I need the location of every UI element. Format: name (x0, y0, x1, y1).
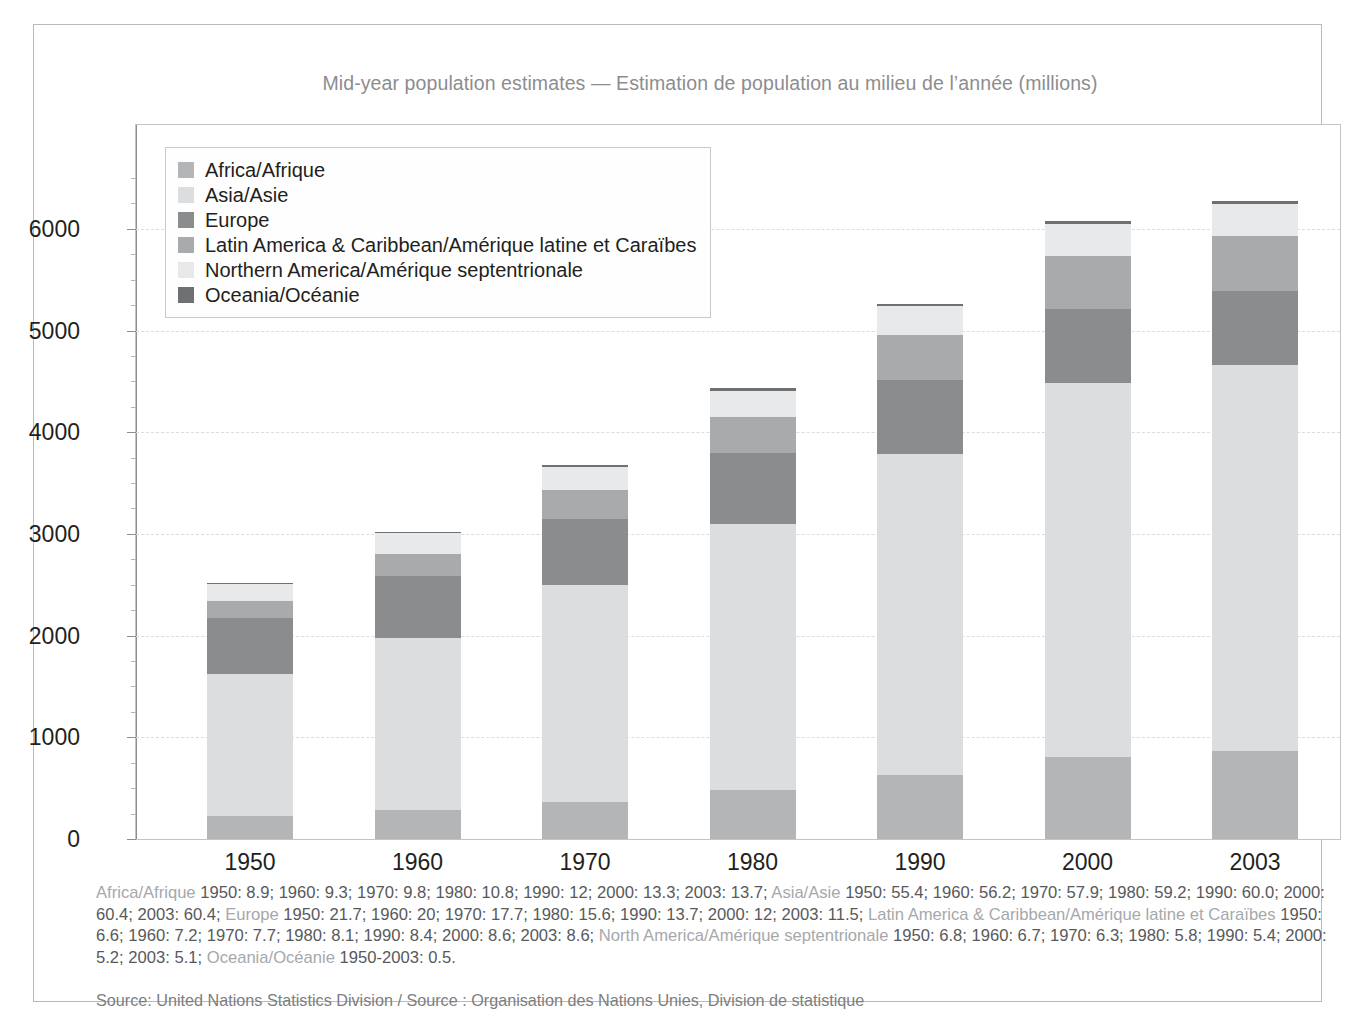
caption-region-values: 1950: 21.7; 1960: 20; 1970: 17.7; 1980: … (283, 905, 868, 924)
data-caption: Africa/Afrique 1950: 8.9; 1960: 9.3; 197… (96, 882, 1341, 968)
bar-segment-latin_america-1960[interactable] (375, 554, 461, 576)
bar-segment-northern_america-2000[interactable] (1045, 224, 1131, 256)
bar-segment-latin_america-1990[interactable] (877, 335, 963, 380)
bar-segment-oceania-1950[interactable] (207, 583, 293, 584)
legend-item-africa[interactable]: Africa/Afrique (178, 157, 696, 182)
bar-segment-oceania-1990[interactable] (877, 304, 963, 307)
caption-region-name: Africa/Afrique (96, 883, 200, 902)
legend-item-label: Africa/Afrique (205, 160, 325, 180)
bar-segment-africa-2003[interactable] (1212, 751, 1298, 839)
legend-item-label: Latin America & Caribbean/Amérique latin… (205, 235, 696, 255)
bar-segment-asia-1950[interactable] (207, 674, 293, 816)
x-axis-label-1960: 1960 (358, 849, 478, 876)
legend-item-oceania[interactable]: Oceania/Océanie (178, 282, 696, 307)
legend-item-label: Asia/Asie (205, 185, 288, 205)
source-note: Source: United Nations Statistics Divisi… (96, 991, 1341, 1010)
y-tick-4000 (127, 432, 136, 433)
y-axis-label-1000: 1000 (0, 724, 80, 751)
bar-segment-latin_america-2000[interactable] (1045, 256, 1131, 309)
bar-segment-europe-2003[interactable] (1212, 291, 1298, 365)
bar-segment-latin_america-1970[interactable] (542, 490, 628, 519)
bar-segment-asia-1980[interactable] (710, 524, 796, 791)
y-tick-6000 (127, 229, 136, 230)
caption-region-name: Oceania/Océanie (207, 948, 340, 967)
bar-segment-africa-1970[interactable] (542, 802, 628, 839)
bar-segment-asia-1970[interactable] (542, 585, 628, 802)
x-axis-label-1950: 1950 (190, 849, 310, 876)
bar-segment-northern_america-1960[interactable] (375, 533, 461, 554)
legend-swatch-icon-asia (178, 187, 194, 203)
bar-segment-africa-1980[interactable] (710, 790, 796, 839)
bar-segment-africa-1960[interactable] (375, 810, 461, 839)
bar-segment-northern_america-1970[interactable] (542, 467, 628, 491)
legend-swatch-icon-northern_america (178, 262, 194, 278)
y-axis-label-2000: 2000 (0, 622, 80, 649)
legend-item-label: Northern America/Amérique septentrionale (205, 260, 583, 280)
y-axis-label-4000: 4000 (0, 419, 80, 446)
bar-segment-asia-2000[interactable] (1045, 383, 1131, 756)
bar-segment-asia-2003[interactable] (1212, 365, 1298, 751)
bar-segment-europe-2000[interactable] (1045, 309, 1131, 383)
bar-segment-africa-1990[interactable] (877, 775, 963, 839)
y-tick-5000 (127, 331, 136, 332)
x-axis-label-1990: 1990 (860, 849, 980, 876)
caption-region-name: Latin America & Caribbean/Amérique latin… (868, 905, 1280, 924)
bar-segment-oceania-1980[interactable] (710, 388, 796, 390)
figure-frame: Mid-year population estimates — Estimati… (33, 24, 1322, 1002)
bar-group-1990[interactable] (877, 125, 963, 839)
legend-item-northern_america[interactable]: Northern America/Amérique septentrionale (178, 257, 696, 282)
y-axis-label-0: 0 (0, 826, 80, 853)
bar-group-1980[interactable] (710, 125, 796, 839)
y-tick-2000 (127, 636, 136, 637)
page-title: Mid-year population estimates — Estimati… (34, 72, 1352, 95)
x-axis-label-1970: 1970 (525, 849, 645, 876)
bar-segment-europe-1990[interactable] (877, 380, 963, 453)
y-tick-1000 (127, 737, 136, 738)
caption-region-values: 1950: 8.9; 1960: 9.3; 1970: 9.8; 1980: 1… (200, 883, 771, 902)
bar-segment-oceania-2003[interactable] (1212, 201, 1298, 204)
legend-swatch-icon-latin_america (178, 237, 194, 253)
y-axis-label-5000: 5000 (0, 317, 80, 344)
bar-segment-europe-1950[interactable] (207, 618, 293, 674)
x-axis-label-2003: 2003 (1195, 849, 1315, 876)
legend-item-latin_america[interactable]: Latin America & Caribbean/Amérique latin… (178, 232, 696, 257)
bar-segment-asia-1960[interactable] (375, 638, 461, 811)
bar-segment-latin_america-2003[interactable] (1212, 236, 1298, 291)
y-axis-label-3000: 3000 (0, 520, 80, 547)
caption-region-name: Europe (225, 905, 283, 924)
bar-segment-africa-1950[interactable] (207, 816, 293, 839)
y-tick-3000 (127, 534, 136, 535)
bar-segment-africa-2000[interactable] (1045, 757, 1131, 839)
x-axis-label-1980: 1980 (693, 849, 813, 876)
bar-segment-asia-1990[interactable] (877, 454, 963, 775)
bar-segment-oceania-1970[interactable] (542, 465, 628, 467)
bar-segment-europe-1970[interactable] (542, 519, 628, 585)
bar-group-2000[interactable] (1045, 125, 1131, 839)
bar-segment-europe-1960[interactable] (375, 576, 461, 638)
bar-group-2003[interactable] (1212, 125, 1298, 839)
bar-segment-latin_america-1980[interactable] (710, 417, 796, 454)
legend-swatch-icon-oceania (178, 287, 194, 303)
legend-swatch-icon-europe (178, 212, 194, 228)
bar-segment-oceania-2000[interactable] (1045, 221, 1131, 224)
caption-region-name: North America/Amérique septentrionale (599, 926, 893, 945)
bar-segment-oceania-1960[interactable] (375, 532, 461, 534)
bar-segment-northern_america-1980[interactable] (710, 391, 796, 417)
bar-segment-latin_america-1950[interactable] (207, 601, 293, 618)
bar-segment-northern_america-2003[interactable] (1212, 204, 1298, 237)
chart-legend: Africa/AfriqueAsia/AsieEuropeLatin Ameri… (165, 147, 711, 318)
bar-segment-europe-1980[interactable] (710, 453, 796, 523)
legend-item-asia[interactable]: Asia/Asie (178, 182, 696, 207)
y-tick-0 (127, 839, 136, 840)
caption-region-name: Asia/Asie (771, 883, 845, 902)
legend-item-label: Europe (205, 210, 270, 230)
legend-item-europe[interactable]: Europe (178, 207, 696, 232)
legend-swatch-icon-africa (178, 162, 194, 178)
bar-segment-northern_america-1990[interactable] (877, 306, 963, 335)
caption-region-values: 1950-2003: 0.5. (340, 948, 456, 967)
bar-segment-northern_america-1950[interactable] (207, 584, 293, 601)
x-axis-label-2000: 2000 (1028, 849, 1148, 876)
y-axis-label-6000: 6000 (0, 215, 80, 242)
legend-item-label: Oceania/Océanie (205, 285, 360, 305)
